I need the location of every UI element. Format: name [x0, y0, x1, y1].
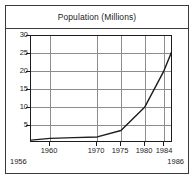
y-tick-mark-25: [26, 53, 30, 54]
plot-area: [30, 35, 172, 142]
y-tick-label-20: 20: [8, 67, 28, 75]
title-divider: [6, 28, 188, 29]
x-tick-label-1984: 1984: [156, 146, 173, 155]
chart-figure: Population (Millions) 30 25 20 15 10 5: [0, 0, 194, 179]
y-tick-label-15: 15: [8, 85, 28, 93]
y-tick-mark-20: [26, 71, 30, 72]
x-range-start-label: 1956: [10, 157, 27, 166]
y-tick-label-30: 30: [8, 31, 28, 39]
y-tick-mark-15: [26, 89, 30, 90]
x-tick-label-1960: 1960: [41, 146, 58, 155]
x-tick-label-1980: 1980: [136, 146, 153, 155]
y-axis-labels: 30 25 20 15 10 5: [6, 0, 28, 179]
x-range-end-label: 1986: [167, 157, 184, 166]
y-tick-mark-5: [26, 125, 30, 126]
page-title: Population (Millions): [58, 12, 137, 22]
y-tick-mark-10: [26, 107, 30, 108]
y-tick-label-10: 10: [8, 103, 28, 111]
chart-title-band: Population (Millions): [6, 6, 188, 28]
x-tick-label-1975: 1975: [112, 146, 129, 155]
population-line-series: [31, 36, 172, 142]
y-tick-label-25: 25: [8, 49, 28, 57]
x-tick-label-1970: 1970: [88, 146, 105, 155]
y-tick-label-5: 5: [8, 121, 28, 129]
y-tick-mark-30: [26, 35, 30, 36]
